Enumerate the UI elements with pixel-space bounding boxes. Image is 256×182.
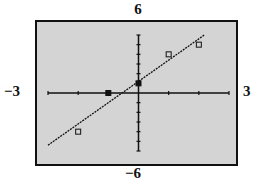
ymin-label: −6	[118, 166, 148, 181]
data-point-marker	[76, 129, 81, 134]
regression-line	[48, 35, 205, 146]
data-point-marker	[196, 42, 201, 47]
xmax-label: 3	[243, 84, 251, 99]
data-point-marker	[166, 52, 171, 57]
ymax-label: 6	[128, 2, 148, 17]
plot-area	[0, 0, 256, 182]
xmin-label: −3	[4, 84, 20, 99]
data-point-marker	[106, 91, 111, 96]
